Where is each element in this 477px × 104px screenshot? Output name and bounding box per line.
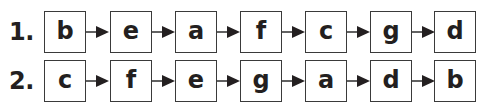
letter-box: e [110,11,152,53]
letter-box: c [44,60,86,102]
sequence-row-1: 1. b e a f c g d [0,11,477,53]
letter-box: f [110,60,152,102]
letter-box: f [240,11,282,53]
letter-box: g [240,60,282,102]
right-arrow-icon [86,31,110,33]
letter-box: d [434,11,476,53]
right-arrow-icon [217,80,241,82]
letter-box: b [434,60,476,102]
right-arrow-icon [412,80,436,82]
letter-box: b [44,11,86,53]
sequence-row-2: 2. c f e g a d b [0,60,477,102]
row-label: 2. [9,66,34,96]
right-arrow-icon [152,31,176,33]
right-arrow-icon [412,31,436,33]
row-label: 1. [9,17,34,47]
right-arrow-icon [282,80,306,82]
right-arrow-icon [347,80,371,82]
letter-box: a [175,11,217,53]
letter-box: e [175,60,217,102]
right-arrow-icon [86,80,110,82]
letter-box: g [370,11,412,53]
letter-box: c [305,11,347,53]
letter-box: a [305,60,347,102]
right-arrow-icon [217,31,241,33]
letter-box: d [370,60,412,102]
right-arrow-icon [282,31,306,33]
right-arrow-icon [152,80,176,82]
right-arrow-icon [347,31,371,33]
